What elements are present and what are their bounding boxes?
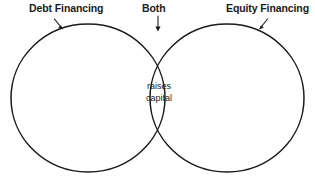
venn-label-intersection: Both — [142, 3, 166, 14]
venn-label-left: Debt Financing — [29, 3, 103, 14]
venn-intersection-content-line-1: raises — [132, 80, 186, 92]
venn-diagram-canvas: Debt Financing Both Equity Financing rai… — [0, 0, 315, 182]
arrow-down-right-icon — [55, 19, 63, 30]
venn-intersection-content: raises capital — [132, 80, 186, 104]
venn-intersection-content-line-2: capital — [132, 92, 186, 104]
venn-label-right: Equity Financing — [226, 3, 309, 14]
arrow-down-left-icon — [259, 19, 267, 30]
arrow-down-icon — [155, 16, 160, 32]
